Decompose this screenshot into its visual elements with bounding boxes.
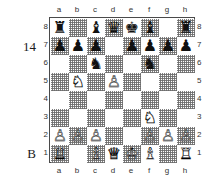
square-c1[interactable]: ♗: [87, 145, 105, 163]
square-d5[interactable]: ♙: [105, 73, 123, 91]
square-h8[interactable]: ♜: [177, 19, 195, 37]
piece-bP-g7[interactable]: ♟: [159, 37, 177, 55]
square-g4[interactable]: [159, 91, 177, 109]
piece-wP-f2[interactable]: ♙: [141, 127, 159, 145]
chessboard: ♜♝♛♚♝♜♟♟♟♟♟♟♟♞♞♘♙♘♙♙♙♙♙♙♖♗♕♔♗♖: [49, 17, 195, 163]
square-e4[interactable]: [123, 91, 141, 109]
piece-bQ-d8[interactable]: ♛: [105, 19, 123, 37]
piece-bB-f8[interactable]: ♝: [141, 19, 159, 37]
square-c6[interactable]: ♞: [87, 55, 105, 73]
square-b6[interactable]: [69, 55, 87, 73]
piece-bP-c7[interactable]: ♟: [87, 37, 105, 55]
piece-wQ-d1[interactable]: ♕: [105, 145, 123, 163]
square-f2[interactable]: ♙: [141, 127, 159, 145]
square-b1[interactable]: [69, 145, 87, 163]
piece-bP-f7[interactable]: ♟: [141, 37, 159, 55]
square-b7[interactable]: ♟: [69, 37, 87, 55]
square-f6[interactable]: ♞: [141, 55, 159, 73]
piece-wR-a1[interactable]: ♖: [51, 145, 69, 163]
square-b2[interactable]: ♙: [69, 127, 87, 145]
square-a2[interactable]: ♙: [51, 127, 69, 145]
piece-bK-e8[interactable]: ♚: [123, 19, 141, 37]
square-f8[interactable]: ♝: [141, 19, 159, 37]
square-c4[interactable]: [87, 91, 105, 109]
square-c7[interactable]: ♟: [87, 37, 105, 55]
square-a5[interactable]: [51, 73, 69, 91]
piece-bR-a8[interactable]: ♜: [51, 19, 69, 37]
square-e8[interactable]: ♚: [123, 19, 141, 37]
square-e3[interactable]: [123, 109, 141, 127]
square-e1[interactable]: ♔: [123, 145, 141, 163]
rank-label-right-1: 1: [197, 144, 207, 162]
square-e6[interactable]: [123, 55, 141, 73]
square-b8[interactable]: [69, 19, 87, 37]
piece-bP-e7[interactable]: ♟: [123, 37, 141, 55]
piece-bN-c6[interactable]: ♞: [87, 55, 105, 73]
square-a8[interactable]: ♜: [51, 19, 69, 37]
square-h3[interactable]: [177, 109, 195, 127]
piece-bP-h7[interactable]: ♟: [177, 37, 195, 55]
move-number-label: 14: [2, 40, 36, 54]
piece-wP-b2[interactable]: ♙: [69, 127, 87, 145]
square-f7[interactable]: ♟: [141, 37, 159, 55]
square-e2[interactable]: [123, 127, 141, 145]
square-c5[interactable]: [87, 73, 105, 91]
piece-wN-f3[interactable]: ♘: [141, 109, 159, 127]
square-f4[interactable]: [141, 91, 159, 109]
piece-wN-b5[interactable]: ♘: [69, 73, 87, 91]
square-g1[interactable]: [159, 145, 177, 163]
square-d8[interactable]: ♛: [105, 19, 123, 37]
square-b4[interactable]: [69, 91, 87, 109]
piece-wK-e1[interactable]: ♔: [123, 145, 141, 163]
square-h6[interactable]: [177, 55, 195, 73]
file-label-top-b: b: [68, 5, 86, 14]
square-h1[interactable]: ♖: [177, 145, 195, 163]
piece-bN-f6[interactable]: ♞: [141, 55, 159, 73]
square-g8[interactable]: [159, 19, 177, 37]
square-e5[interactable]: [123, 73, 141, 91]
piece-wP-a2[interactable]: ♙: [51, 127, 69, 145]
rank-label-left-4: 4: [38, 90, 48, 108]
square-c8[interactable]: ♝: [87, 19, 105, 37]
square-c2[interactable]: ♙: [87, 127, 105, 145]
square-g3[interactable]: [159, 109, 177, 127]
square-a6[interactable]: [51, 55, 69, 73]
square-f3[interactable]: ♘: [141, 109, 159, 127]
square-f5[interactable]: [141, 73, 159, 91]
piece-bP-a7[interactable]: ♟: [51, 37, 69, 55]
square-d2[interactable]: [105, 127, 123, 145]
square-c3[interactable]: [87, 109, 105, 127]
square-b5[interactable]: ♘: [69, 73, 87, 91]
square-g7[interactable]: ♟: [159, 37, 177, 55]
piece-wP-g2[interactable]: ♙: [159, 127, 177, 145]
square-h4[interactable]: [177, 91, 195, 109]
square-h2[interactable]: ♙: [177, 127, 195, 145]
square-e7[interactable]: ♟: [123, 37, 141, 55]
piece-bP-b7[interactable]: ♟: [69, 37, 87, 55]
side-to-move-label: B: [2, 147, 36, 161]
square-g6[interactable]: [159, 55, 177, 73]
square-h5[interactable]: [177, 73, 195, 91]
square-f1[interactable]: ♗: [141, 145, 159, 163]
square-a7[interactable]: ♟: [51, 37, 69, 55]
piece-wP-d5[interactable]: ♙: [105, 73, 123, 91]
square-a1[interactable]: ♖: [51, 145, 69, 163]
square-d4[interactable]: [105, 91, 123, 109]
square-d6[interactable]: [105, 55, 123, 73]
square-g5[interactable]: [159, 73, 177, 91]
piece-bB-c8[interactable]: ♝: [87, 19, 105, 37]
square-d3[interactable]: [105, 109, 123, 127]
square-h7[interactable]: ♟: [177, 37, 195, 55]
piece-wR-h1[interactable]: ♖: [177, 145, 195, 163]
square-d7[interactable]: [105, 37, 123, 55]
square-a3[interactable]: [51, 109, 69, 127]
square-g2[interactable]: ♙: [159, 127, 177, 145]
square-a4[interactable]: [51, 91, 69, 109]
piece-wP-h2[interactable]: ♙: [177, 127, 195, 145]
square-b3[interactable]: [69, 109, 87, 127]
piece-wB-c1[interactable]: ♗: [87, 145, 105, 163]
piece-wB-f1[interactable]: ♗: [141, 145, 159, 163]
piece-wP-c2[interactable]: ♙: [87, 127, 105, 145]
square-d1[interactable]: ♕: [105, 145, 123, 163]
piece-bR-h8[interactable]: ♜: [177, 19, 195, 37]
